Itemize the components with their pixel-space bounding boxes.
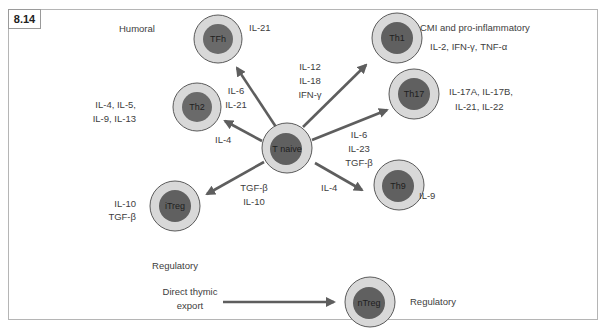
diagram-graphics: TFh Th1 Th2 Th17 T naive iTreg: [0, 0, 605, 328]
ntreg-source-line1: Direct thymic: [158, 285, 222, 299]
tfh-secreted: IL-21: [249, 21, 271, 35]
th17-inducer-1: IL-6: [339, 128, 379, 142]
cell-label-th1: Th1: [389, 33, 405, 43]
cell-label-th2: Th2: [189, 102, 205, 112]
tfh-inducer-1: IL-6: [216, 84, 256, 98]
th1-inducer-3: IFN-γ: [290, 88, 330, 102]
itreg-inducer-2: IL-10: [234, 195, 274, 209]
th17-inducer-3: TGF-β: [339, 156, 379, 170]
itreg-secreted-line1: IL-10: [90, 197, 136, 211]
th9-inducer: IL-4: [321, 181, 337, 195]
cell-th17: Th17: [389, 69, 439, 119]
th1-inducer-1: IL-12: [290, 60, 330, 74]
cell-t-naive: T naive: [262, 123, 312, 173]
function-label-humoral: Humoral: [119, 22, 155, 36]
function-label-itreg-regulatory: Regulatory: [138, 259, 212, 273]
th1-secreted: IL-2, IFN-γ, TNF-α: [430, 40, 507, 54]
t-cell-differentiation-diagram: 8.14 TF: [0, 0, 605, 328]
cell-label-tfh: TFh: [210, 34, 226, 44]
cell-label-th9: Th9: [390, 181, 406, 191]
cell-th1: Th1: [372, 13, 422, 63]
th2-inducer: IL-4: [215, 133, 231, 147]
ntreg-source-line2: export: [158, 299, 222, 313]
th9-secreted: IL-9: [419, 189, 435, 203]
cell-label-t-naive: T naive: [272, 144, 301, 154]
th2-secreted-line2: IL-9, IL-13: [80, 112, 136, 126]
function-label-ntreg-regulatory: Regulatory: [410, 295, 456, 309]
th17-secreted-line1: IL-17A, IL-17B,: [449, 85, 513, 99]
itreg-inducer-1: TGF-β: [234, 181, 274, 195]
th17-secreted-line2: IL-21, IL-22: [455, 100, 504, 114]
cell-itreg: iTreg: [150, 181, 200, 231]
cell-tfh: TFh: [194, 15, 242, 63]
cell-label-ntreg: nTreg: [357, 298, 380, 308]
itreg-secreted-line2: TGF-β: [90, 210, 136, 224]
tfh-inducer-2: IL-21: [216, 98, 256, 112]
th2-secreted-line1: IL-4, IL-5,: [80, 98, 136, 112]
function-label-cmi: CMI and pro-inflammatory: [420, 21, 530, 35]
cell-label-th17: Th17: [404, 89, 425, 99]
cell-th9: Th9: [374, 160, 424, 210]
th17-inducer-2: IL-23: [339, 142, 379, 156]
cell-th2: Th2: [173, 83, 221, 131]
cell-ntreg: nTreg: [345, 277, 395, 327]
cell-label-itreg: iTreg: [165, 201, 185, 211]
th1-inducer-2: IL-18: [290, 74, 330, 88]
